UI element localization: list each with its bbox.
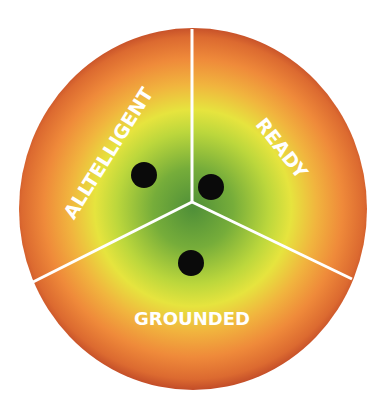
radial-diagram: ALLTELLIGENT READY GROUNDED <box>0 0 387 406</box>
dot-ready <box>198 174 224 200</box>
segment-label-grounded: GROUNDED <box>134 308 250 329</box>
dot-grounded <box>178 250 204 276</box>
dot-alltelligent <box>131 162 157 188</box>
